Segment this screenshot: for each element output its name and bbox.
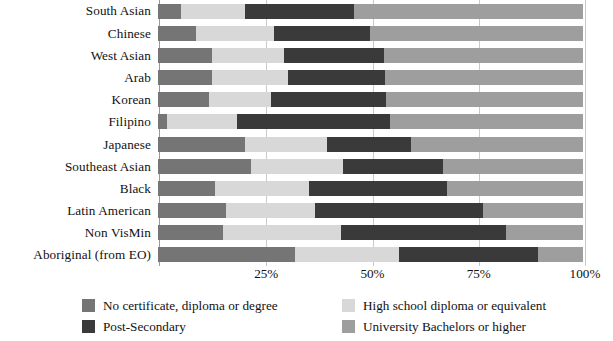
x-axis-ticks: 25%50%75%100% — [160, 267, 585, 287]
bar-segment — [158, 225, 223, 240]
bar-segment — [309, 181, 447, 196]
bar-segment — [295, 247, 399, 262]
bar-segment — [196, 26, 274, 41]
bar-segment — [251, 159, 343, 174]
bar-segment — [343, 159, 443, 174]
bar-segment — [158, 26, 196, 41]
bar-segment — [158, 114, 167, 129]
category-label: Latin American — [0, 204, 158, 217]
bar-segment — [212, 48, 283, 63]
bar-segment — [443, 159, 583, 174]
x-tick-label: 75% — [467, 267, 491, 280]
legend-label: No certificate, diploma or degree — [103, 299, 278, 312]
plot-area: South AsianChineseWest AsianArabKoreanFi… — [0, 0, 613, 268]
bar-segment — [327, 137, 411, 152]
bar-segment — [385, 70, 583, 85]
bar-row: Black — [0, 177, 613, 199]
bar-segment — [341, 225, 507, 240]
bar-track — [158, 181, 583, 196]
bar-segment — [237, 114, 390, 129]
bar-track — [158, 92, 583, 107]
bar-row: Chinese — [0, 22, 613, 44]
bar-track — [158, 114, 583, 129]
legend-swatch-icon — [82, 299, 95, 312]
bar-segment — [158, 92, 209, 107]
bar-segment — [158, 4, 181, 19]
x-tick-label: 50% — [360, 267, 384, 280]
bar-track — [158, 48, 583, 63]
bar-segment — [411, 137, 583, 152]
bar-segment — [506, 225, 583, 240]
bar-segment — [226, 203, 315, 218]
bar-segment — [354, 4, 584, 19]
category-label: Arab — [0, 71, 158, 84]
bar-segment — [538, 247, 583, 262]
legend-item[interactable]: University Bachelors or higher — [342, 320, 602, 333]
legend-label: High school diploma or equivalent — [363, 299, 546, 312]
bar-segment — [245, 137, 327, 152]
bar-segment — [284, 48, 384, 63]
bar-row: Latin American — [0, 200, 613, 222]
bar-segment — [158, 181, 215, 196]
legend-swatch-icon — [342, 320, 355, 333]
bar-segment — [399, 247, 538, 262]
bar-track — [158, 137, 583, 152]
legend-label: University Bachelors or higher — [363, 320, 526, 333]
bar-segment — [271, 92, 385, 107]
bar-segment — [158, 137, 245, 152]
bar-row: Japanese — [0, 133, 613, 155]
bar-track — [158, 247, 583, 262]
legend-swatch-icon — [82, 320, 95, 333]
bar-segment — [274, 26, 370, 41]
category-label: West Asian — [0, 49, 158, 62]
bar-row: Aboriginal (from EO) — [0, 244, 613, 266]
bar-segment — [370, 26, 583, 41]
category-label: Filipino — [0, 115, 158, 128]
legend-item[interactable]: High school diploma or equivalent — [342, 299, 602, 312]
legend-swatch-icon — [342, 299, 355, 312]
bar-segment — [158, 48, 212, 63]
bar-segment — [245, 4, 353, 19]
bar-segment — [158, 70, 212, 85]
category-label: Black — [0, 182, 158, 195]
category-label: Korean — [0, 93, 158, 106]
bar-segment — [212, 70, 288, 85]
category-label: Non VisMin — [0, 226, 158, 239]
bar-segment — [288, 70, 385, 85]
bar-segment — [215, 181, 309, 196]
bar-row: Southeast Asian — [0, 155, 613, 177]
category-label: Southeast Asian — [0, 160, 158, 173]
bar-segment — [483, 203, 583, 218]
bar-track — [158, 26, 583, 41]
bar-segment — [386, 92, 583, 107]
bar-track — [158, 225, 583, 240]
bar-track — [158, 4, 583, 19]
bar-row: Filipino — [0, 111, 613, 133]
chart-legend: No certificate, diploma or degreeHigh sc… — [82, 295, 602, 337]
bar-row: West Asian — [0, 44, 613, 66]
bar-segment — [158, 159, 251, 174]
bar-segment — [181, 4, 245, 19]
legend-item[interactable]: Post-Secondary — [82, 320, 342, 333]
bar-segment — [384, 48, 583, 63]
category-label: Chinese — [0, 27, 158, 40]
bar-segment — [158, 247, 295, 262]
bar-rows: South AsianChineseWest AsianArabKoreanFi… — [0, 0, 613, 266]
bar-track — [158, 159, 583, 174]
bar-track — [158, 70, 583, 85]
bar-segment — [315, 203, 483, 218]
bar-segment — [447, 181, 583, 196]
bar-segment — [209, 92, 272, 107]
bar-row: South Asian — [0, 0, 613, 22]
category-label: Japanese — [0, 138, 158, 151]
category-label: Aboriginal (from EO) — [0, 248, 158, 261]
bar-row: Arab — [0, 67, 613, 89]
legend-label: Post-Secondary — [103, 320, 186, 333]
category-label: South Asian — [0, 4, 158, 17]
bar-track — [158, 203, 583, 218]
legend-item[interactable]: No certificate, diploma or degree — [82, 299, 342, 312]
x-tick-label: 25% — [254, 267, 278, 280]
bar-segment — [223, 225, 341, 240]
bar-segment — [167, 114, 237, 129]
bar-row: Korean — [0, 89, 613, 111]
